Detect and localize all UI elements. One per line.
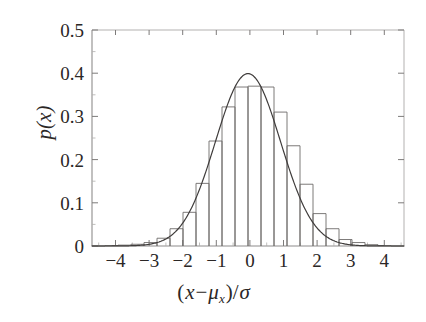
y-axis-title: p(x) (34, 93, 55, 153)
x-axis-ticks (116, 30, 385, 246)
y-tick-label-0.5: 0.5 (34, 21, 84, 40)
chart-figure: 0.5 0.4 0.3 0.2 0.1 0 −4 −3 −2 −1 0 1 2 … (0, 0, 426, 322)
histogram-bar-outline (92, 86, 404, 246)
y-axis-title-p: p (32, 129, 56, 140)
x-title-mu: μ (208, 280, 219, 304)
x-title-sigma: σ (239, 280, 249, 304)
minus-sign-icon: − (194, 280, 208, 304)
y-tick-label-0: 0 (34, 237, 84, 256)
y-tick-label-0.2: 0.2 (34, 151, 84, 170)
x-title-paren-open: ( (176, 280, 185, 304)
y-tick-label-0.4: 0.4 (34, 64, 84, 83)
x-tick-label-4: 4 (364, 251, 404, 270)
y-axis-title-arg: (x) (32, 106, 56, 129)
x-axis-title: (x−μx)/σ (0, 282, 426, 305)
y-tick-label-0.1: 0.1 (34, 194, 84, 213)
histogram-series (92, 86, 404, 246)
x-title-mu-subscript: x (219, 291, 225, 306)
x-title-paren-close-slash: )/ (225, 280, 240, 304)
